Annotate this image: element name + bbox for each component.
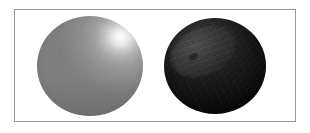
sphere-dark	[164, 18, 266, 114]
sphere-dark-bottom-falloff	[164, 18, 266, 114]
figure-root: Two rendered spheres side by side inside…	[0, 0, 310, 133]
sphere-light	[37, 16, 143, 116]
panel-canvas	[15, 10, 295, 121]
figure-panel	[14, 9, 296, 122]
sphere-light-highlight-icon	[37, 16, 143, 116]
